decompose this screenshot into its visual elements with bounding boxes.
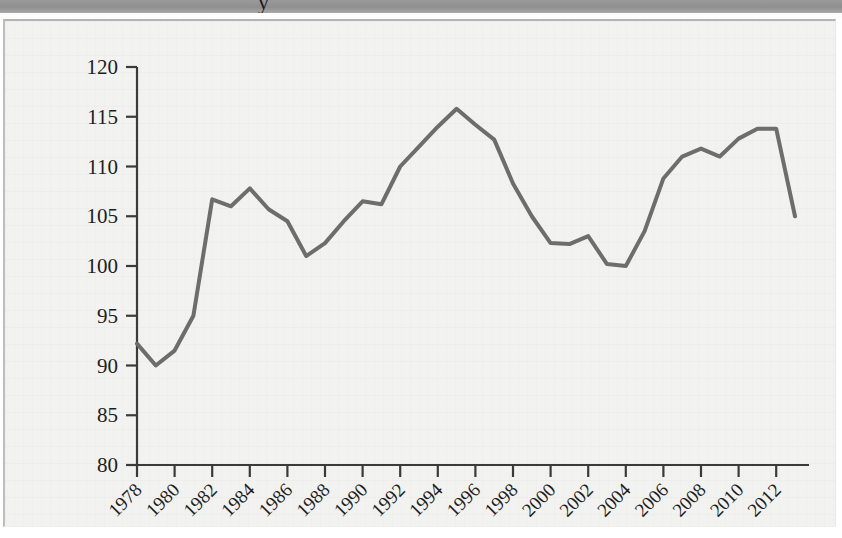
y-axis-ticks [126, 67, 137, 465]
svg-text:85: 85 [97, 403, 118, 427]
svg-text:2008: 2008 [668, 479, 710, 521]
svg-text:1986: 1986 [255, 479, 297, 521]
svg-text:2010: 2010 [706, 479, 748, 521]
svg-text:1982: 1982 [179, 479, 221, 521]
svg-text:2006: 2006 [631, 479, 673, 521]
svg-text:1992: 1992 [367, 479, 409, 521]
svg-text:2004: 2004 [593, 479, 635, 521]
svg-text:80: 80 [97, 453, 118, 477]
x-axis-tick-labels: 1978198019821984198619881990199219941996… [104, 479, 785, 521]
svg-text:1978: 1978 [104, 479, 146, 521]
data-series-line [137, 109, 795, 366]
partial-title-glyph: y [258, 0, 269, 13]
svg-text:120: 120 [87, 55, 119, 79]
svg-text:1994: 1994 [405, 479, 447, 521]
svg-text:1996: 1996 [443, 479, 485, 521]
svg-text:1980: 1980 [142, 479, 184, 521]
chart-page: y 80859095100105110115120 19781980198219… [0, 0, 842, 538]
figure-panel: 80859095100105110115120 1978198019821984… [3, 19, 836, 527]
svg-text:1998: 1998 [480, 479, 522, 521]
x-axis-ticks [137, 465, 776, 477]
svg-text:100: 100 [87, 254, 119, 278]
line-chart-plot: 80859095100105110115120 1978198019821984… [5, 21, 838, 529]
svg-text:115: 115 [87, 105, 118, 129]
svg-text:1984: 1984 [217, 479, 259, 521]
svg-text:95: 95 [97, 304, 118, 328]
svg-text:90: 90 [97, 354, 118, 378]
svg-text:2002: 2002 [555, 479, 597, 521]
svg-text:1990: 1990 [330, 479, 372, 521]
svg-text:105: 105 [87, 204, 119, 228]
svg-text:2000: 2000 [518, 479, 560, 521]
y-axis-tick-labels: 80859095100105110115120 [87, 55, 119, 477]
svg-text:1988: 1988 [292, 479, 334, 521]
svg-text:110: 110 [87, 155, 118, 179]
svg-text:2012: 2012 [743, 479, 785, 521]
page-top-band: y [0, 0, 842, 13]
